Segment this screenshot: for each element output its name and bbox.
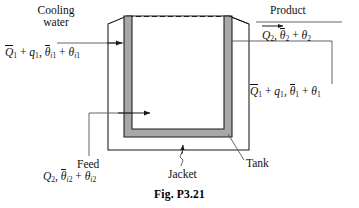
feed-label: Feed <box>77 158 99 170</box>
figure-caption: Fig. P3.21 <box>0 188 359 200</box>
tank-label: Tank <box>246 157 269 169</box>
cooling-water-outlet-formula: Q1 + q1, θ1 + θ1 <box>250 85 321 97</box>
feed-stream-formula: Q2, θi2 + θi2 <box>43 170 96 182</box>
product-label: Product <box>270 4 306 16</box>
jacket-label: Jacket <box>168 168 197 180</box>
cooling-water-label-line1: Cooling <box>18 4 94 16</box>
cooling-water-label: Cooling water <box>18 4 94 29</box>
product-stream-formula: Q2, θ2 + θ2 <box>262 29 311 41</box>
cooling-water-label-line2: water <box>18 16 94 28</box>
cooling-water-inlet-formula: Q1 + q1, θi1 + θi1 <box>5 46 80 58</box>
figure-container: Cooling water Q1 + q1, θi1 + θi1 Product… <box>0 0 359 208</box>
